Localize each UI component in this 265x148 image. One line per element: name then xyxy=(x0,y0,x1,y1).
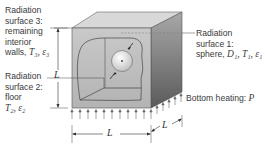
surface1-line2: surface 1: xyxy=(196,39,262,50)
height-dimension-label: L xyxy=(54,69,60,80)
depth-dimension-label: L xyxy=(162,119,168,130)
surface3-line3: remaining xyxy=(5,26,49,37)
surface3-line1: Radiation xyxy=(5,5,49,16)
surface2-line2: surface 2: xyxy=(5,82,43,93)
label-surface2: Radiation surface 2: floor T₂, ε₂ xyxy=(5,71,43,113)
surface3-line5: walls, T₃, ε₃ xyxy=(5,47,49,58)
height-dimension xyxy=(50,28,68,108)
surface1-line1: Radiation xyxy=(196,28,262,39)
surface1-line3: sphere, D₁, T₁, ε₁ xyxy=(196,49,262,60)
surface3-line2: surface 3: xyxy=(5,16,49,27)
surface2-line1: Radiation xyxy=(5,71,43,82)
surface2-line4: T₂, ε₂ xyxy=(5,103,43,114)
label-bottom-heating: Bottom heating: P xyxy=(186,93,254,104)
cube-side-face xyxy=(151,12,182,108)
width-dimension-label: L xyxy=(107,127,113,138)
surface2-line3: floor xyxy=(5,92,43,103)
label-surface3: Radiation surface 3: remaining interior … xyxy=(5,5,49,58)
label-surface1: Radiation surface 1: sphere, D₁, T₁, ε₁ xyxy=(196,28,262,60)
cube-front-face xyxy=(72,28,151,108)
surface3-line4: interior xyxy=(5,37,49,48)
